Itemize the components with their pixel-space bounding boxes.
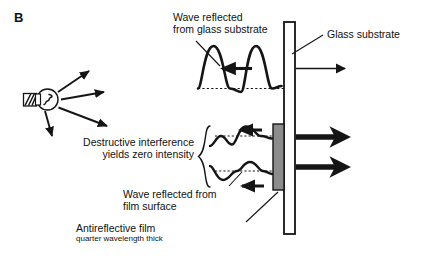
wave-reflected-from-glass-substrate <box>198 46 284 92</box>
label-line-1: Wave reflected from <box>123 188 217 200</box>
label-antireflective-film: Antireflective film <box>76 222 155 234</box>
transmitted-arrows <box>296 69 345 168</box>
leader-wave-glass <box>196 41 220 66</box>
wave-reflected-from-film-surface-lower <box>210 162 272 186</box>
leader-glass-substrate <box>292 35 323 54</box>
figure-panel-b: B Wave reflectedfrom glass substrate Gla… <box>0 0 426 260</box>
label-wave-reflected-from-film-surface: Wave reflected fromfilm surface <box>123 188 217 213</box>
label-glass-substrate: Glass substrate <box>327 28 400 40</box>
leader-antireflective-film <box>246 192 278 222</box>
light-bulb-icon <box>24 89 59 110</box>
panel-letter-b: B <box>14 10 23 25</box>
label-line-1: Wave reflected <box>173 11 243 23</box>
ray-up-right <box>58 71 89 92</box>
label-destructive-interference: Destructive interferenceyields zero inte… <box>78 136 194 161</box>
curly-brace-destructive-interference <box>199 126 211 187</box>
ray-down-left <box>45 111 52 136</box>
label-line-1: Destructive interference <box>83 136 194 148</box>
antireflective-film-layer <box>273 124 284 190</box>
wave-reflected-from-film-surface-upper <box>210 127 272 147</box>
label-line-2: from glass substrate <box>173 23 268 35</box>
label-antireflective-film-thickness: quarter wavelength thick <box>76 234 163 243</box>
ray-right <box>61 92 104 100</box>
label-line-2: yields zero intensity <box>102 148 194 160</box>
label-wave-reflected-from-glass-substrate: Wave reflectedfrom glass substrate <box>173 11 268 36</box>
ray-down-right <box>59 108 108 127</box>
label-line-2: film surface <box>123 200 177 212</box>
